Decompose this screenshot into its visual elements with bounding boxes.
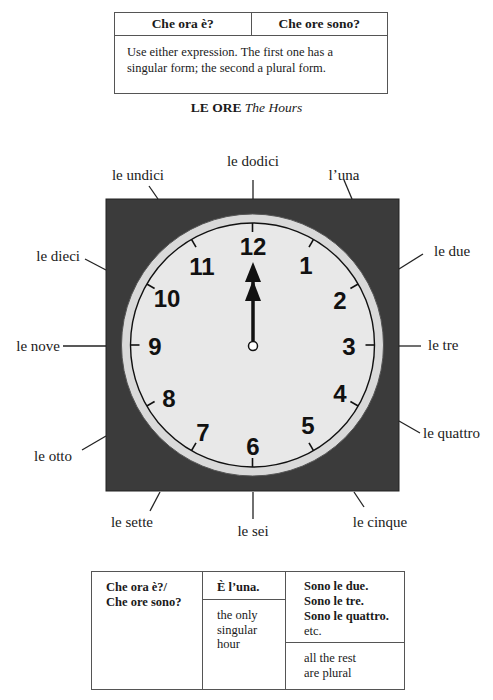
expressions-table: Che ora è? Che ore sono? Use either expr… (114, 12, 388, 94)
label-le-due: le due (434, 243, 471, 259)
singular-note: the only singular hour (203, 600, 285, 652)
singular-note-line: hour (217, 637, 285, 652)
numeral-7: 7 (196, 419, 209, 446)
plural-answer: Sono le quattro. (304, 609, 404, 624)
plural-note-line: are plural (304, 666, 404, 681)
label-le-dieci: le dieci (36, 248, 80, 264)
numeral-8: 8 (162, 385, 175, 412)
numeral-12: 12 (240, 233, 267, 260)
label-le-sette: le sette (111, 514, 153, 530)
section-title: LE ORE The Hours (0, 100, 493, 116)
plural-etc: etc. (304, 624, 322, 638)
plural-answer: Sono le tre. (304, 594, 404, 609)
label-le-sei: le sei (237, 523, 268, 539)
numeral-11: 11 (189, 253, 214, 280)
label-le-undici: le undici (112, 167, 164, 183)
numeral-1: 1 (299, 252, 312, 279)
numeral-10: 10 (154, 285, 181, 312)
singular-column: È l’una. the only singular hour (203, 572, 286, 689)
numeral-3: 3 (342, 333, 355, 360)
singular-note-line: the only (217, 608, 285, 623)
numeral-5: 5 (301, 412, 314, 439)
question-cell: Che ora è?/ Che ore sono? (92, 572, 203, 689)
usage-table: Che ora è?/ Che ore sono? È l’una. the o… (91, 571, 405, 690)
numeral-4: 4 (333, 380, 347, 407)
expressions-note: Use either expression. The first one has… (115, 36, 387, 76)
label-le-quattro: le quattro (423, 425, 480, 441)
label-le-cinque: le cinque (353, 514, 408, 530)
label-le-tre: le tre (428, 337, 459, 353)
label-luna: l’una (329, 167, 360, 183)
singular-note-line: singular (217, 623, 285, 638)
label-le-dodici: le dodici (227, 153, 279, 169)
plural-answer: Sono le due. (304, 579, 404, 594)
plural-column: Sono le due. Sono le tre. Sono le quattr… (286, 572, 404, 689)
plural-note-line: all the rest (304, 651, 404, 666)
plural-note: all the rest are plural (286, 643, 404, 680)
numeral-9: 9 (148, 333, 161, 360)
numeral-6: 6 (246, 433, 259, 460)
question-line-2: Che ore sono? (106, 595, 202, 610)
title-english: The Hours (245, 100, 302, 115)
expressions-table-header: Che ora è? Che ore sono? (115, 13, 387, 36)
clock-diagram: 12 1 2 3 4 5 6 7 8 9 10 11 le dodici l’u… (0, 130, 493, 550)
title-italian: LE ORE (191, 100, 242, 115)
label-le-nove: le nove (16, 338, 60, 354)
label-le-otto: le otto (34, 448, 72, 464)
header-che-ora-e: Che ora è? (115, 13, 252, 35)
numeral-2: 2 (333, 287, 346, 314)
plural-answers: Sono le due. Sono le tre. Sono le quattr… (286, 572, 404, 643)
singular-answer: È l’una. (203, 572, 285, 600)
question-line-1: Che ora è?/ (106, 580, 202, 595)
clock-center-pin (249, 342, 258, 351)
header-che-ore-sono: Che ore sono? (252, 13, 388, 35)
